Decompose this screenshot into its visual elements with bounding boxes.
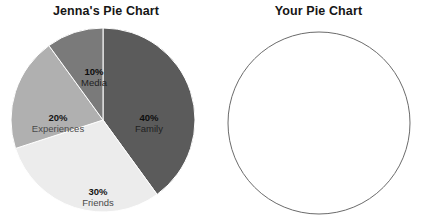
your-pie-chart-panel: Your Pie Chart	[212, 0, 425, 224]
your-chart-title: Your Pie Chart	[212, 4, 425, 18]
jennas-pie-graphic: 40%Family30%Friends20%Experiences10%Medi…	[10, 27, 196, 213]
pie-slice-label-family: 40%Family	[135, 113, 163, 134]
pie-slice-label-media: 10%Media	[81, 67, 107, 88]
empty-pie-svg	[227, 31, 411, 215]
slice-category-experiences: Experiences	[32, 124, 84, 135]
your-pie-graphic[interactable]	[227, 31, 411, 215]
pie-chart-worksheet: Jenna's Pie Chart 40%Family30%Friends20%…	[0, 0, 425, 224]
jennas-pie-chart-panel: Jenna's Pie Chart 40%Family30%Friends20%…	[0, 0, 212, 224]
jennas-chart-title: Jenna's Pie Chart	[0, 4, 212, 18]
slice-category-media: Media	[81, 78, 107, 89]
pie-slice-label-friends: 30%Friends	[82, 187, 114, 208]
slice-category-family: Family	[135, 124, 163, 135]
empty-pie-outline	[228, 32, 410, 214]
pie-slice-label-experiences: 20%Experiences	[32, 113, 84, 134]
slice-category-friends: Friends	[82, 198, 114, 209]
